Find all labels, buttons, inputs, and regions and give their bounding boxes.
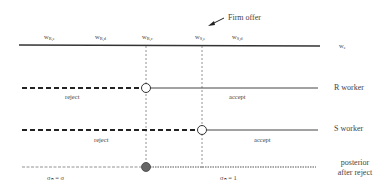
r-accept-label: accept — [229, 94, 246, 101]
posterior-marker — [142, 163, 151, 172]
diagram-canvas — [0, 0, 383, 193]
tick-w-s-d: wS,d — [232, 34, 243, 42]
arrowhead-icon — [208, 21, 215, 26]
s-reject-label: reject — [94, 137, 108, 144]
r-threshold-marker — [142, 84, 151, 93]
posterior-label-line2: after reject — [330, 169, 380, 177]
tick-w-r-c: wR,c — [142, 34, 153, 42]
r-reject-label: reject — [65, 94, 79, 101]
posterior-right-label: σₙ = 1 — [220, 175, 237, 182]
posterior-label-line1: posterior — [330, 159, 380, 167]
tick-w-r-e: wR,e — [44, 34, 55, 42]
tick-sub: S,d — [237, 36, 243, 41]
r-worker-label: R worker — [334, 84, 364, 92]
wage-axis — [19, 45, 320, 46]
posterior-label: posterior after reject — [330, 159, 380, 177]
tick-sub: R,d — [100, 36, 106, 41]
firm-offer-label: Firm offer — [228, 14, 261, 22]
s-threshold-marker — [198, 126, 207, 135]
s-worker-label: S worker — [334, 125, 363, 133]
axis-label: we — [339, 43, 346, 51]
tick-sub: R,c — [147, 36, 153, 41]
s-accept-label: accept — [254, 137, 271, 144]
tick-sub: S,e — [200, 36, 206, 41]
posterior-left-label: σₙ = σ — [47, 175, 64, 182]
tick-w-s-e: wS,e — [195, 34, 205, 42]
tick-sub: R,e — [49, 36, 55, 41]
axis-label-sub: e — [344, 45, 346, 50]
tick-w-r-d: wR,d — [95, 34, 106, 42]
